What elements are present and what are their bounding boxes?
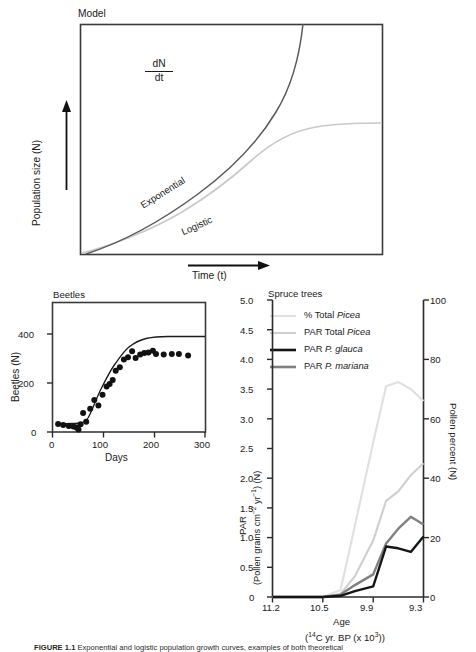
model-plot-frame [81, 25, 383, 255]
model-panel: Model Population size (N) dN dt Exponent… [0, 0, 476, 285]
figure-caption: FIGURE 1.1 Exponential and logistic popu… [34, 643, 464, 652]
beetles-plot-svg [0, 285, 232, 465]
population-axis-arrow [62, 100, 71, 190]
series-par-p-glauca [273, 536, 424, 597]
figure-caption-label: FIGURE 1.1 [34, 643, 75, 652]
time-axis-arrow [188, 261, 270, 270]
spruce-plot-svg [232, 285, 476, 652]
series-par-total-picea [273, 463, 424, 597]
figure-caption-text: Exponential and logistic population grow… [77, 643, 343, 652]
beetles-y-ticks [47, 334, 53, 432]
beetles-data-points [55, 348, 191, 433]
beetles-plot-frame [53, 303, 206, 433]
spruce-right-tick-marks [424, 300, 430, 597]
spruce-panel: Spruce trees PAR (Pollen grains cm−2 yr−… [232, 285, 476, 652]
beetles-x-ticks [53, 432, 206, 438]
logistic-curve [82, 123, 382, 253]
figure-container: Model Population size (N) dN dt Exponent… [0, 0, 476, 652]
model-x-axis-label: Time (t) [192, 271, 227, 281]
beetles-panel: Beetles Beetles (N) 0 200 400 0 100 200 … [0, 285, 232, 465]
model-plot-svg [0, 0, 476, 285]
spruce-left-tick-marks [267, 300, 273, 597]
exponential-curve [86, 24, 303, 254]
